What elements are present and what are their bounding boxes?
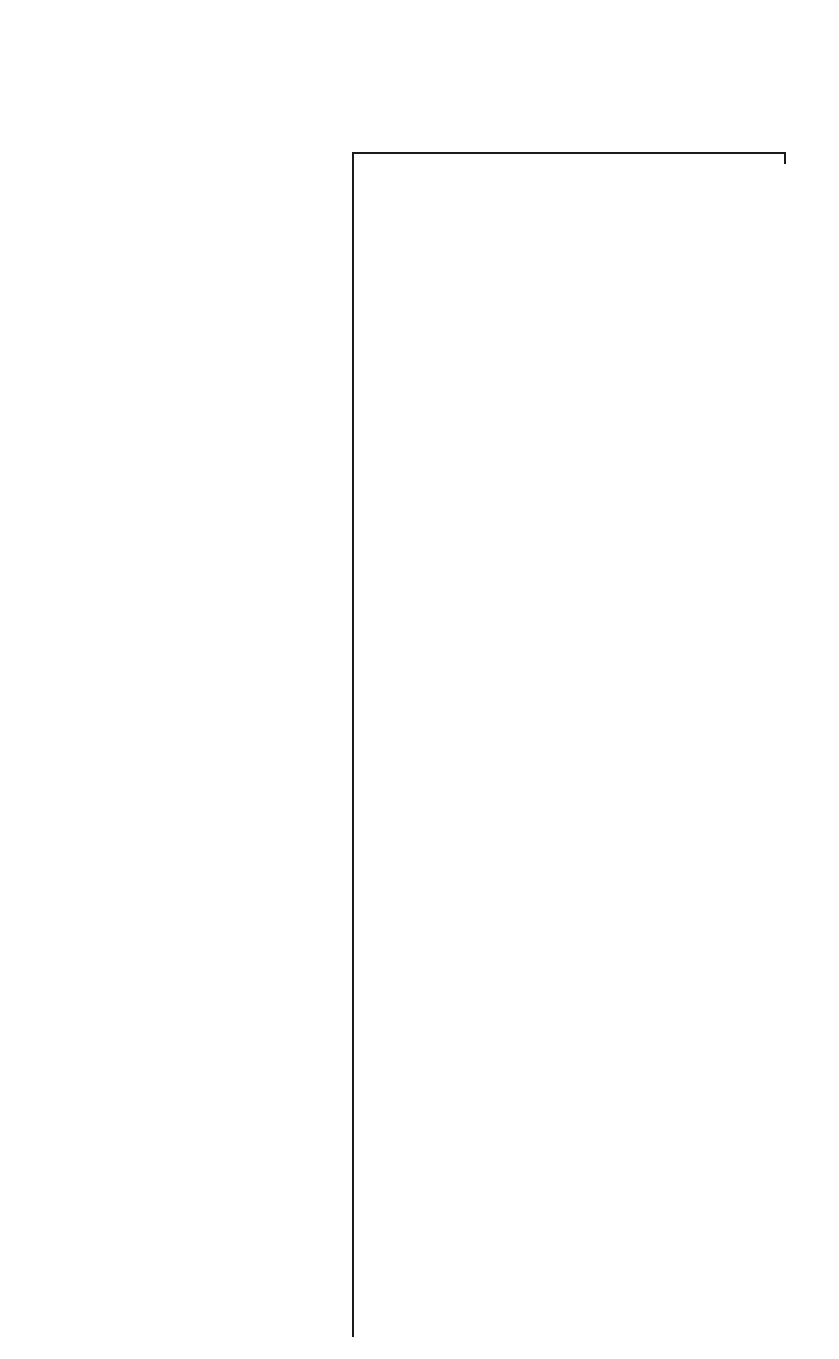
y-axis-line: [352, 152, 354, 1337]
x-axis: [0, 0, 839, 1359]
x-axis-right-cap: [784, 152, 786, 164]
war-deaths-bar-chart: [0, 0, 839, 1359]
x-axis-line: [352, 152, 786, 154]
